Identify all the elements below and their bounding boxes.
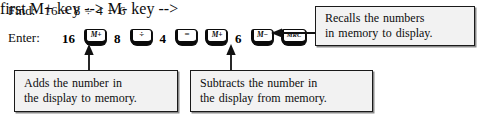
- memory-recall-clear-key[interactable]: MRC: [281, 29, 306, 45]
- keystroke-sequence: 16 M+ 8 ÷ 4 = M+ 6 M− MRC: [58, 25, 310, 49]
- divide-key-label: ÷: [139, 31, 144, 39]
- equals-key[interactable]: =: [175, 29, 197, 45]
- memory-plus-key[interactable]: M+: [84, 29, 106, 45]
- memory-minus-key-label: M−: [257, 31, 268, 39]
- callout-subtract-line: Subtracts the number in: [200, 76, 363, 91]
- callout-add-line: Adds the number in: [24, 76, 168, 91]
- callout-recall: Recalls the numbers in memory to display…: [315, 6, 475, 46]
- keystroke-number: 8: [110, 32, 126, 45]
- keystroke-number: 16: [58, 32, 80, 45]
- callout-add-line: the display to memory.: [24, 91, 168, 106]
- equals-key-label: =: [185, 31, 190, 39]
- find-label: Find:: [8, 4, 35, 17]
- memory-minus-key[interactable]: M−: [251, 29, 273, 45]
- divide-key[interactable]: ÷: [130, 29, 152, 45]
- calculator-keystroke-figure: Find: 16 + 8 ÷ 4 − 6 Enter: 16 M+ 8 ÷ 4 …: [0, 0, 484, 120]
- keystroke-number: 4: [156, 32, 172, 45]
- callout-subtract-from-memory: Subtracts the number in the display from…: [190, 70, 373, 112]
- memory-plus-key[interactable]: M+: [205, 29, 227, 45]
- memory-plus-key-label: M+: [91, 31, 102, 39]
- find-expression: 16 + 8 ÷ 4 − 6: [44, 4, 126, 17]
- memory-plus-key-label: M+: [212, 31, 223, 39]
- memory-recall-clear-key-label: MRC: [287, 31, 301, 39]
- callout-add-to-memory: Adds the number in the display to memory…: [14, 70, 178, 112]
- callout-subtract-line: the display from memory.: [200, 91, 363, 106]
- keystroke-number: 6: [231, 32, 247, 45]
- callout-recall-line: in memory to display.: [325, 26, 465, 41]
- enter-label: Enter:: [8, 31, 40, 44]
- callout-recall-line: Recalls the numbers: [325, 11, 465, 26]
